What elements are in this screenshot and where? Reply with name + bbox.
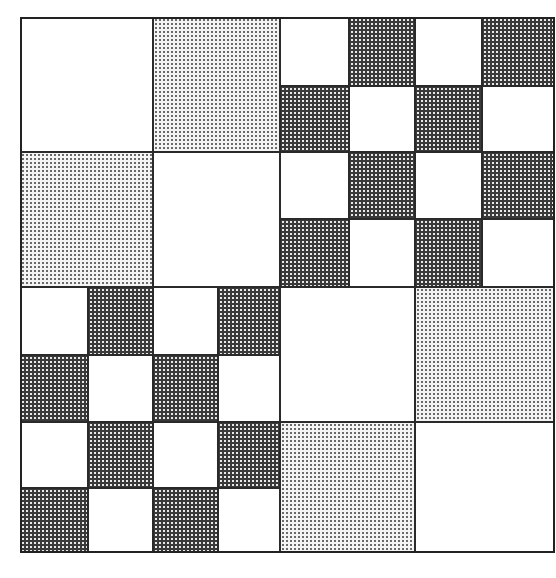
tile-white — [349, 219, 415, 287]
tile-white — [218, 355, 280, 422]
tile-light-dotted — [153, 17, 280, 152]
tile-dark-dotted — [218, 287, 280, 355]
tile-white — [349, 86, 415, 152]
tile-dark-dotted — [280, 86, 349, 152]
tile-dark-dotted — [153, 488, 218, 553]
tile-dark-dotted — [88, 287, 153, 355]
quadrant-top-right — [280, 17, 555, 287]
tile-white — [415, 152, 482, 219]
quadrant-bottom-right — [280, 287, 555, 553]
tile-white — [280, 152, 349, 219]
tile-dark-dotted — [218, 422, 280, 488]
tile-white — [482, 219, 555, 287]
tile-white — [153, 422, 218, 488]
tile-dark-dotted — [349, 152, 415, 219]
tile-white — [88, 355, 153, 422]
tile-white — [20, 422, 88, 488]
tile-dark-dotted — [482, 152, 555, 219]
quadrant-bottom-left — [20, 287, 280, 553]
tile-light-dotted — [20, 152, 153, 287]
tile-white — [280, 287, 415, 422]
tile-dark-dotted — [20, 488, 88, 553]
tile-dark-dotted — [280, 219, 349, 287]
tile-dark-dotted — [482, 17, 555, 86]
tile-light-dotted — [280, 422, 415, 553]
tile-dark-dotted — [415, 219, 482, 287]
tile-white — [88, 488, 153, 553]
tile-white — [153, 287, 218, 355]
quilt-board — [20, 17, 555, 553]
tile-white — [482, 86, 555, 152]
tile-white — [218, 488, 280, 553]
quadrant-top-left — [20, 17, 280, 287]
tile-dark-dotted — [349, 17, 415, 86]
tile-dark-dotted — [20, 355, 88, 422]
tile-white — [415, 17, 482, 86]
tile-white — [20, 17, 153, 152]
tile-light-dotted — [415, 287, 555, 422]
tile-white — [415, 422, 555, 553]
tile-white — [280, 17, 349, 86]
tile-white — [20, 287, 88, 355]
tile-dark-dotted — [153, 355, 218, 422]
tile-dark-dotted — [88, 422, 153, 488]
tile-dark-dotted — [415, 86, 482, 152]
tile-white — [153, 152, 280, 287]
